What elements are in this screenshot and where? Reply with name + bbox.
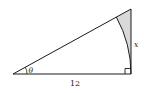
triangle xyxy=(13,9,131,74)
right-angle-marker xyxy=(125,69,131,75)
side-label: x xyxy=(134,40,139,49)
angle-arc xyxy=(25,67,27,74)
base-label: 12 xyxy=(70,79,80,88)
right-triangle-diagram: θ 12 x xyxy=(0,0,144,93)
shaded-region xyxy=(116,9,131,74)
angle-label: θ xyxy=(29,66,34,75)
